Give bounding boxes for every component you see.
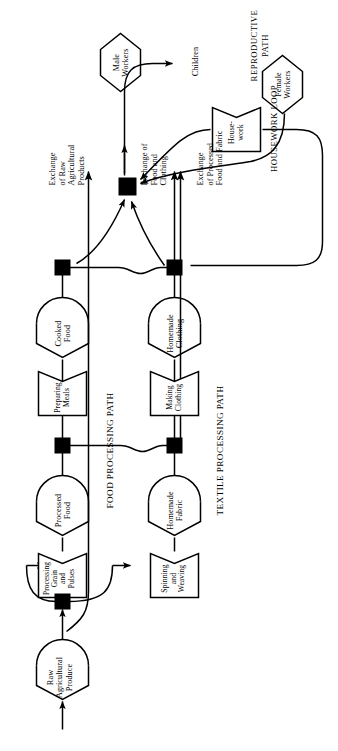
flow-cooked-clothing-crosslink — [68, 267, 168, 273]
label-raw-agricultural-produce: Raw Agricultural Produce — [45, 649, 73, 705]
junction-workers — [118, 177, 136, 195]
label-exchange-raw-agricultural: Exchange of Raw Agricultural Products — [47, 91, 85, 185]
label-food-processing-path: FOOD PROCESSING PATH — [104, 365, 115, 535]
label-textile-processing-path: TEXTILE PROCESSING PATH — [214, 355, 225, 545]
label-processing-grain-and-pulses: Processing Grain and Pulses — [42, 553, 75, 603]
label-exchange-food-clothing: Exchange of Food and Clothing — [139, 97, 168, 185]
label-reproductive-path: REPRODUCTIVE PATH — [248, 0, 269, 105]
label-making-clothing: Making Clothing — [165, 375, 182, 419]
label-homemade-clothing: Homemade Clothing — [165, 305, 184, 361]
label-homemade-fabric: Homemade Fabric — [165, 481, 184, 539]
diagram-canvas: Raw Agricultural Produce Processing Grai… — [0, 0, 338, 751]
flow-clothing-to-workers — [131, 201, 164, 265]
label-housework: House- work — [227, 111, 245, 153]
flow-cooked-to-workers — [76, 199, 124, 263]
figure-page: Raw Agricultural Produce Processing Grai… — [0, 0, 338, 751]
label-spinning-and-weaving: Spinning and Weaving — [160, 553, 186, 603]
label-male-workers: Male Workers — [111, 34, 130, 90]
label-cooked-food: Cooked Food — [53, 307, 72, 359]
flow-food-fabric-crosslink — [68, 445, 168, 451]
junction-processed-food — [54, 437, 70, 453]
junction-clothing — [166, 259, 182, 275]
label-housework-loop: HOUSEWORK LOOP — [268, 65, 279, 191]
junction-cooked-food — [54, 259, 70, 275]
junction-fabric — [166, 437, 182, 453]
label-exchange-processed-food-fabric: Exchange of Processed Food and Fabric — [195, 81, 224, 185]
label-processed-food: Processed Food — [53, 481, 72, 539]
label-preparing-meals: Preparing Meals — [53, 375, 70, 419]
